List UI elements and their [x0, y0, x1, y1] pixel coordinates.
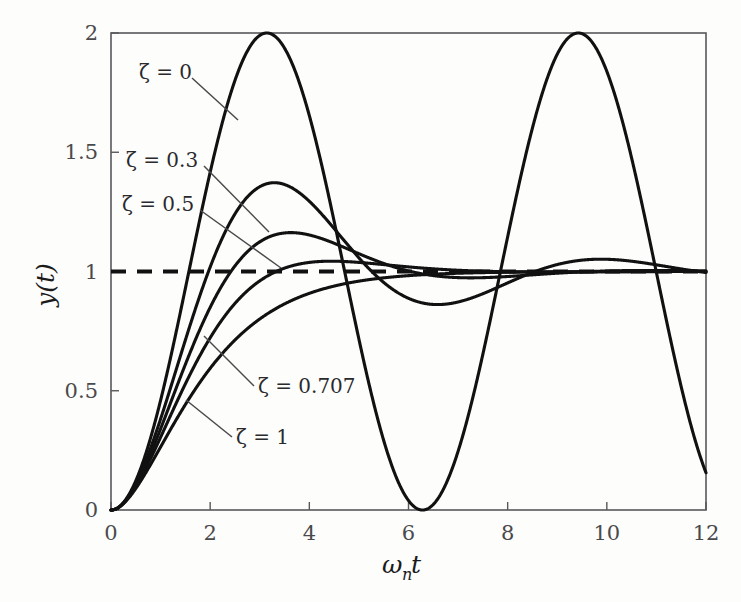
- curve-zeta-1: [111, 272, 706, 510]
- x-tick-label: 0: [104, 521, 117, 545]
- x-tick-label: 12: [693, 521, 720, 545]
- leader-line-zeta0707: [204, 336, 254, 386]
- y-axis-title: y(t): [31, 263, 60, 308]
- x-tick-label: 10: [593, 521, 620, 545]
- y-tick-label: 0.5: [65, 379, 98, 403]
- step-response-plot: 024681012 00.511.52 ζ = 0 ζ = 0.3 ζ = 0.…: [0, 0, 741, 602]
- leader-line-zeta1: [186, 400, 232, 437]
- annotation-zeta-0: ζ = 0: [139, 60, 192, 84]
- x-axis-title-omega: ω: [382, 550, 402, 579]
- curve-zeta-0-3: [111, 183, 706, 510]
- x-tick-label: 6: [402, 521, 415, 545]
- x-axis-title: ω n t: [382, 550, 422, 584]
- leader-line-zeta0: [192, 78, 238, 120]
- x-axis-ticks: [111, 502, 706, 510]
- x-axis-tick-labels: 024681012: [104, 521, 719, 545]
- x-tick-label: 8: [501, 521, 514, 545]
- annotation-zeta-03: ζ = 0.3: [126, 148, 198, 172]
- y-tick-label: 1: [85, 260, 98, 284]
- annotation-zeta-05: ζ = 0.5: [122, 192, 194, 216]
- leader-line-zeta03: [204, 166, 269, 232]
- x-tick-label: 4: [303, 521, 316, 545]
- y-axis-tick-labels: 00.511.52: [65, 21, 98, 522]
- y-tick-label: 0: [85, 498, 98, 522]
- x-axis-title-t: t: [411, 550, 422, 579]
- y-tick-label: 2: [85, 21, 98, 45]
- annotation-zeta-1: ζ = 1: [236, 425, 289, 449]
- x-tick-label: 2: [203, 521, 216, 545]
- y-tick-label: 1.5: [65, 140, 98, 164]
- figure-root: 024681012 00.511.52 ζ = 0 ζ = 0.3 ζ = 0.…: [0, 0, 741, 602]
- annotation-zeta-0707: ζ = 0.707: [258, 374, 356, 398]
